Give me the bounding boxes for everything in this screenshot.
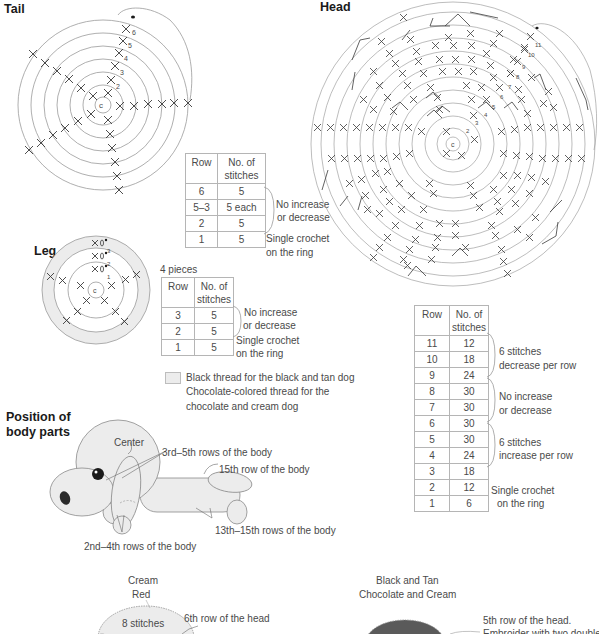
tail-center-label: c	[99, 99, 103, 113]
table-row: 35	[162, 308, 234, 324]
head-row-label-6: 6	[500, 90, 503, 104]
body-label-rows-2-4: 2nd–4th rows of the body	[84, 540, 196, 554]
table-row: 424	[415, 448, 489, 464]
body-label-rows-3-5: 3rd–5th rows of the body	[162, 446, 272, 460]
tail-row-label-2: 2	[116, 80, 120, 94]
table-header-row: Row	[162, 278, 195, 308]
head-row-label-11: 11	[535, 38, 541, 52]
tail-row-label-5: 5	[128, 39, 132, 53]
table-row: 5–35 each	[186, 200, 266, 216]
head-note-2a: No increase	[499, 390, 552, 404]
bottom-right-head-diagram	[360, 610, 490, 634]
bottom-left-note: 6th row of the head	[184, 612, 270, 626]
table-row: 530	[415, 432, 489, 448]
bottom-right-line-2: Chocolate and Cream	[359, 588, 456, 602]
head-row-label-7: 7	[508, 80, 511, 94]
leg-note-1a: No increase	[244, 306, 297, 320]
head-diagram	[300, 0, 599, 300]
table-row: 16	[415, 496, 489, 512]
head-note-2b: or decrease	[499, 404, 552, 418]
tail-row-label-4: 4	[124, 52, 128, 66]
head-stitch-table: RowNo. of stitches 1112 1018 924 830 730…	[414, 305, 489, 512]
leg-stitch-table: RowNo. of stitches 35 25 15	[161, 277, 234, 356]
table-row: 730	[415, 400, 489, 416]
head-note-3b: increase per row	[499, 449, 573, 463]
body-label-rows-13-15: 13th–15th rows of the body	[215, 524, 336, 538]
table-row: 212	[415, 480, 489, 496]
leg-diagram	[0, 240, 160, 360]
table-header-row: Row	[415, 306, 450, 336]
table-row: 25	[162, 324, 234, 340]
head-note-1b: decrease per row	[499, 359, 576, 373]
tail-row-label-3: 3	[120, 66, 124, 80]
legend-line-2: Chocolate-colored thread for the	[186, 385, 329, 399]
bottom-left-line-1: Cream	[128, 574, 158, 588]
table-row: 15	[162, 340, 234, 356]
head-row-label-4: 4	[484, 108, 487, 122]
legend-swatch	[165, 372, 181, 384]
legend-line-3: chocolate and cream dog	[186, 400, 298, 414]
leg-pieces-label: 4 pieces	[160, 263, 197, 277]
head-row-label-10: 10	[528, 48, 535, 62]
head-note-1a: 6 stitches	[499, 345, 541, 359]
table-row: 318	[415, 464, 489, 480]
tail-bracket-icon	[264, 186, 276, 236]
head-note-3a: 6 stitches	[499, 436, 541, 450]
bottom-right-line-1: Black and Tan	[376, 574, 439, 588]
tail-row-label-6: 6	[132, 26, 136, 40]
table-row: 65	[186, 184, 266, 200]
body-label-row-15: 15th row of the body	[219, 463, 310, 477]
table-row: 1018	[415, 352, 489, 368]
legend-line-1: Black thread for the black and tan dog	[186, 371, 354, 385]
head-row-label-8: 8	[516, 70, 519, 84]
head-center-label: c	[451, 138, 455, 152]
table-header-row: Row	[186, 154, 218, 184]
bottom-right-note-2: Embroider with two double	[483, 627, 599, 634]
leg-center-label: c	[93, 284, 97, 298]
tail-stitch-table: RowNo. of stitches 65 5–35 each 25 15	[185, 153, 266, 248]
head-row-label-5: 5	[492, 100, 495, 114]
body-label-center: Center	[114, 436, 144, 450]
leg-note-1b: or decrease	[243, 319, 296, 333]
head-note-4a: Single crochet	[491, 484, 554, 498]
leg-row-label-3: 3	[107, 244, 110, 258]
head-brackets-icon	[487, 332, 499, 482]
head-note-4b: on the ring	[497, 497, 544, 511]
table-row: 1112	[415, 336, 489, 352]
table-row: 15	[186, 232, 266, 248]
table-row: 25	[186, 216, 266, 232]
table-row: 924	[415, 368, 489, 384]
bottom-right-note-1: 5th row of the head.	[483, 614, 571, 628]
table-row: 630	[415, 416, 489, 432]
table-header-stitches: No. of stitches	[218, 154, 266, 184]
head-row-label-2: 2	[466, 124, 469, 138]
leg-row-label-1: 1	[107, 270, 110, 284]
leg-row-label-2: 2	[107, 257, 110, 271]
head-row-label-3: 3	[475, 116, 478, 130]
bottom-left-circle-label: 8 stitches	[122, 617, 164, 631]
leg-note-2a: Single crochet	[236, 334, 299, 348]
table-header-stitches: No. of stitches	[450, 306, 489, 336]
leg-note-2b: on the ring	[236, 347, 283, 361]
table-row: 830	[415, 384, 489, 400]
table-header-stitches: No. of stitches	[195, 278, 234, 308]
head-row-label-9: 9	[522, 60, 525, 74]
